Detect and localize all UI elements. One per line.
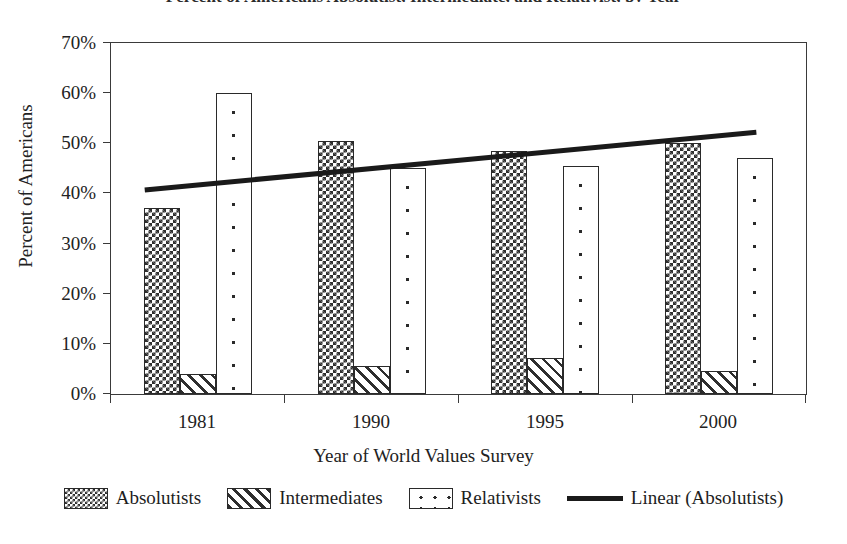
x-tick-label-1995: 1995 — [485, 411, 605, 433]
chart-legend: Absolutists Intermediates Relativists Li… — [0, 487, 847, 509]
bar-relativists-1995 — [563, 166, 599, 394]
x-tick-mark-right-edge — [805, 394, 806, 403]
x-axis-title: Year of World Values Survey — [0, 445, 847, 467]
chart-container: Percent of Americans Absolutist, Interme… — [0, 0, 847, 544]
bar-relativists-2000 — [737, 158, 773, 394]
y-tick-label-70: 70% — [34, 33, 96, 52]
bar-absolutists-2000 — [665, 143, 701, 394]
y-tick-label-20: 20% — [34, 284, 96, 303]
bar-intermediates-1995 — [527, 358, 563, 394]
x-tick-label-1990: 1990 — [311, 411, 431, 433]
legend-item-linear-absolutists: Linear (Absolutists) — [567, 487, 784, 509]
x-tick-mark-3 — [632, 394, 633, 403]
bar-absolutists-1981 — [144, 208, 180, 394]
bar-relativists-1990 — [390, 168, 426, 394]
legend-swatch-dots-icon — [409, 488, 453, 509]
legend-label-intermediates: Intermediates — [279, 487, 382, 509]
legend-item-relativists: Relativists — [409, 487, 541, 509]
legend-swatch-line-icon — [567, 496, 623, 501]
legend-item-absolutists: Absolutists — [64, 487, 202, 509]
y-tick-label-50: 50% — [34, 133, 96, 152]
legend-label-relativists: Relativists — [461, 487, 541, 509]
legend-label-linear-absolutists: Linear (Absolutists) — [631, 487, 784, 509]
x-tick-mark-left-edge — [110, 394, 111, 403]
plot-area — [110, 42, 807, 395]
bar-absolutists-1995 — [491, 151, 527, 394]
bar-intermediates-1981 — [180, 374, 216, 394]
legend-swatch-diagonal-icon — [227, 488, 271, 509]
chart-title: Percent of Americans Absolutist, Interme… — [0, 0, 847, 2]
y-tick-label-0: 0% — [34, 384, 96, 403]
legend-swatch-checker-icon — [64, 488, 108, 509]
x-tick-mark-1 — [284, 394, 285, 403]
bar-intermediates-1990 — [354, 366, 390, 394]
y-tick-label-30: 30% — [34, 234, 96, 253]
bar-relativists-1981 — [216, 93, 252, 394]
y-tick-label-10: 10% — [34, 334, 96, 353]
x-tick-mark-2 — [458, 394, 459, 403]
x-tick-label-2000: 2000 — [658, 411, 778, 433]
x-tick-label-1981: 1981 — [137, 411, 257, 433]
y-tick-label-40: 40% — [34, 183, 96, 202]
legend-label-absolutists: Absolutists — [116, 487, 202, 509]
bar-absolutists-1990 — [318, 141, 354, 394]
bar-intermediates-2000 — [701, 371, 737, 394]
legend-item-intermediates: Intermediates — [227, 487, 382, 509]
y-tick-label-60: 60% — [34, 83, 96, 102]
